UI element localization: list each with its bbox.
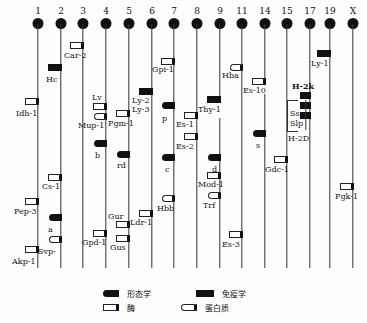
gene-label: Pgk-1 bbox=[335, 193, 358, 201]
h2-inner-line bbox=[305, 100, 306, 130]
morph-marker-icon bbox=[162, 102, 175, 109]
legend-morph: 形态学 bbox=[103, 288, 151, 299]
h2k-label: H-2k bbox=[292, 82, 314, 90]
gene-label: Mod-1 bbox=[198, 181, 224, 189]
gene-label: Gdc-1 bbox=[265, 166, 289, 174]
gene-label: Mup-1 bbox=[78, 122, 104, 130]
chromosome-label: 2 bbox=[58, 6, 64, 16]
gene-label: Thy-1 bbox=[198, 106, 221, 114]
immune-marker-icon bbox=[139, 88, 153, 95]
gene-label: Car-2 bbox=[64, 52, 87, 60]
gene-label: Cs-1 bbox=[42, 183, 60, 191]
chromosome-line bbox=[219, 24, 220, 103]
chromosome-label: 14 bbox=[259, 6, 270, 16]
chromosome-line bbox=[196, 24, 197, 268]
chromosome-line bbox=[264, 94, 265, 268]
enzyme-marker-icon bbox=[207, 172, 221, 179]
enzyme-marker-icon bbox=[48, 174, 62, 181]
gene-label: Gus bbox=[110, 244, 126, 252]
gene-label: rd bbox=[117, 162, 126, 170]
gene-label: Ly-1 bbox=[311, 60, 328, 68]
chromosome-label: 19 bbox=[324, 6, 335, 16]
morph-marker-icon bbox=[253, 130, 266, 137]
enzyme-marker-icon bbox=[184, 133, 198, 140]
enzyme-marker-icon bbox=[229, 231, 243, 238]
chromosome-label: X bbox=[350, 6, 356, 16]
chromosome-line bbox=[329, 24, 330, 268]
enzyme-marker-icon bbox=[25, 198, 39, 205]
legend-label: 酶 bbox=[127, 302, 135, 313]
immune-marker-icon bbox=[300, 92, 311, 99]
enzyme-marker-icon bbox=[116, 221, 130, 228]
chromosome-line bbox=[352, 24, 353, 268]
h2d-label: H-2D bbox=[288, 135, 309, 143]
immune-marker-icon bbox=[207, 96, 221, 103]
gene-label: a bbox=[48, 226, 53, 234]
gene-label: p bbox=[162, 115, 167, 123]
gene-label: Gpd-1 bbox=[82, 239, 106, 247]
gene-label: Ly-3 bbox=[132, 106, 149, 114]
enzyme-marker-icon bbox=[252, 78, 266, 85]
gene-label: Hbb bbox=[157, 205, 174, 213]
chromosome-label: 9 bbox=[217, 6, 223, 16]
chromosome-line bbox=[151, 24, 152, 268]
protein-legend-icon bbox=[181, 304, 197, 311]
gene-label: Akp-1 bbox=[12, 258, 36, 266]
gene-label: Ldr-1 bbox=[130, 219, 152, 227]
enzyme-marker-icon bbox=[70, 42, 84, 49]
legend-enzyme: 酶 bbox=[103, 302, 135, 313]
chromosome-label: 1 bbox=[35, 6, 41, 16]
legend-label: 蛋白质 bbox=[205, 302, 229, 313]
chromosome-label: 15 bbox=[281, 6, 292, 16]
gene-label: s bbox=[256, 142, 260, 150]
morph-marker-icon bbox=[49, 214, 62, 221]
immune-marker-icon bbox=[317, 50, 331, 57]
morph-marker-icon bbox=[94, 140, 107, 147]
gene-label: Lv bbox=[92, 94, 102, 102]
morph-marker-icon bbox=[117, 151, 130, 158]
gene-label: Pep-3 bbox=[14, 208, 37, 216]
legend-label: 形态学 bbox=[127, 288, 151, 299]
enzyme-marker-icon bbox=[139, 210, 153, 217]
gene-label: Es-10 bbox=[243, 87, 266, 95]
gene-label: Es-2 bbox=[176, 143, 194, 151]
protein-marker-icon bbox=[230, 64, 243, 71]
chromosome-map: 1234567891114151719XCar-2HcIdh-1LvMup-1P… bbox=[0, 0, 367, 323]
enzyme-marker-icon bbox=[93, 230, 107, 237]
gene-label: Gur bbox=[108, 213, 123, 221]
chromosome-label: 6 bbox=[149, 6, 155, 16]
protein-marker-icon bbox=[208, 192, 221, 199]
chromosome-label: 8 bbox=[194, 6, 200, 16]
protein-marker-icon bbox=[49, 236, 62, 243]
enzyme-legend-icon bbox=[103, 304, 119, 311]
gene-label: Trf bbox=[203, 202, 215, 210]
enzyme-marker-icon bbox=[25, 98, 39, 105]
gene-label: Es-3 bbox=[222, 241, 240, 249]
morph-marker-icon bbox=[208, 154, 221, 161]
chromosome-line bbox=[60, 24, 61, 268]
chromosome-line bbox=[82, 24, 83, 268]
h2-inner-label: Slp bbox=[290, 120, 303, 128]
immune-legend-icon bbox=[196, 290, 214, 297]
chromosome-line bbox=[37, 24, 38, 268]
chromosome-label: 3 bbox=[80, 6, 86, 16]
legend-immune: 免疫学 bbox=[196, 288, 246, 299]
enzyme-marker-icon bbox=[93, 103, 107, 110]
protein-marker-icon bbox=[94, 113, 107, 120]
immune-marker-icon bbox=[48, 64, 62, 71]
chromosome-line bbox=[286, 24, 287, 268]
gene-label: b bbox=[95, 152, 100, 160]
enzyme-marker-icon bbox=[274, 156, 288, 163]
chromosome-label: 5 bbox=[126, 6, 132, 16]
gene-label: Pgm-1 bbox=[108, 120, 134, 128]
legend-label: 免疫学 bbox=[222, 288, 246, 299]
enzyme-marker-icon bbox=[116, 235, 130, 242]
gene-label: Idh-1 bbox=[16, 110, 37, 118]
morph-legend-icon bbox=[103, 290, 119, 297]
morph-marker-icon bbox=[162, 154, 175, 161]
gene-label: Hba bbox=[222, 72, 239, 80]
enzyme-marker-icon bbox=[184, 112, 198, 119]
chromosome-label: 7 bbox=[171, 6, 177, 16]
chromosome-label: 11 bbox=[236, 6, 247, 16]
gene-label: Es-1 bbox=[176, 121, 194, 129]
